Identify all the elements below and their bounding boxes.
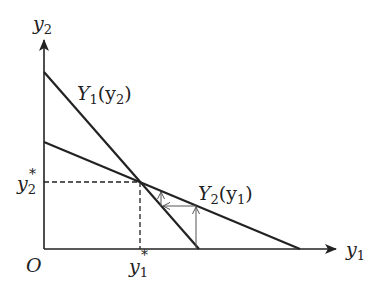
curve-Y2 [44,142,300,249]
origin-label: O [26,254,42,276]
equilibrium-y1-label: y1* [128,247,148,280]
x-axis-label: y1 [345,238,365,263]
reaction-diagram: y2 y1 O Y1(y2) Y2(y1) y2* y1* [0,0,379,294]
equilibrium-y2-label: y2* [16,166,36,197]
curve-Y2-label: Y2(y1) [198,182,253,207]
curve-Y1-label: Y1(y2) [77,82,132,107]
y-axis-label: y2 [32,12,52,37]
